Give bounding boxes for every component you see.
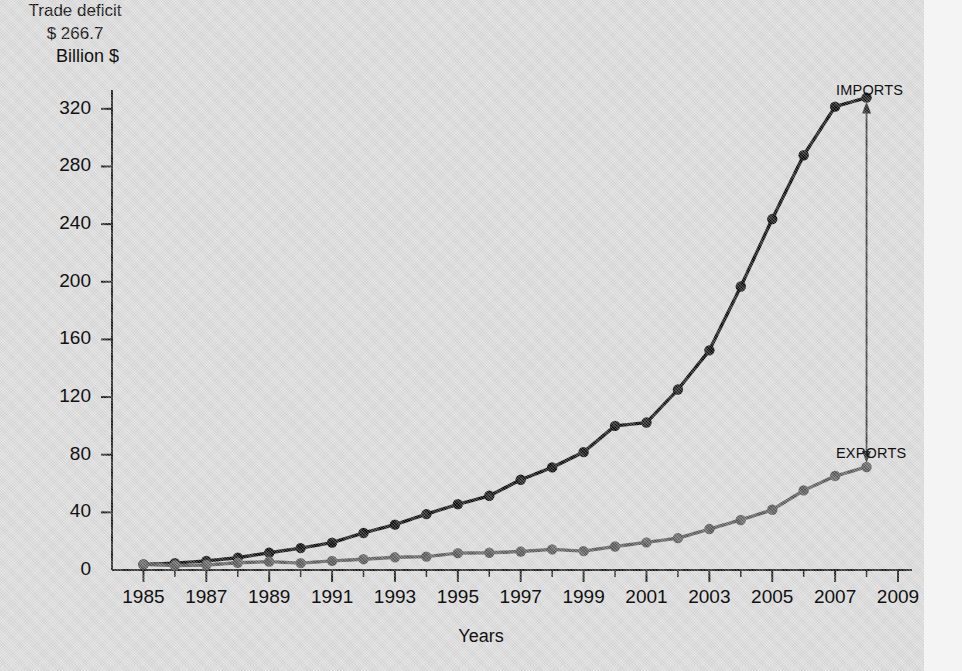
x-tick-label: 2005 bbox=[737, 586, 807, 608]
x-tick-label: 1999 bbox=[549, 586, 619, 608]
chart-axes bbox=[101, 90, 912, 582]
x-tick-label: 1987 bbox=[171, 586, 241, 608]
y-axis-title: Billion $ bbox=[56, 46, 119, 67]
x-tick-label: 2007 bbox=[800, 586, 870, 608]
x-tick-label: 1995 bbox=[423, 586, 493, 608]
page-right-margin bbox=[924, 0, 962, 671]
x-tick-label: 1989 bbox=[234, 586, 304, 608]
x-tick-label: 2009 bbox=[863, 586, 933, 608]
y-tick-label: 240 bbox=[25, 212, 91, 234]
x-axis-title: Years bbox=[0, 626, 962, 647]
x-tick-label: 1985 bbox=[108, 586, 178, 608]
x-tick-label: 1997 bbox=[486, 586, 556, 608]
y-tick-label: 0 bbox=[25, 558, 91, 580]
y-tick-label: 280 bbox=[25, 154, 91, 176]
y-tick-label: 160 bbox=[25, 327, 91, 349]
x-tick-label: 2001 bbox=[611, 586, 681, 608]
y-tick-label: 40 bbox=[25, 500, 91, 522]
x-tick-label: 1991 bbox=[297, 586, 367, 608]
y-tick-label: 80 bbox=[25, 443, 91, 465]
chart-annotation-arrows bbox=[862, 102, 871, 463]
y-tick-label: 200 bbox=[25, 270, 91, 292]
x-tick-label: 1993 bbox=[360, 586, 430, 608]
series-label-exports: EXPORTS bbox=[836, 445, 906, 461]
line-chart-plot bbox=[0, 0, 962, 671]
y-tick-label: 120 bbox=[25, 385, 91, 407]
chart-figure: Billion $ Years 04080120160200240280320 … bbox=[0, 0, 962, 671]
y-tick-label: 320 bbox=[25, 97, 91, 119]
series-label-imports: IMPORTS bbox=[836, 82, 903, 98]
x-tick-label: 2003 bbox=[674, 586, 744, 608]
chart-series bbox=[138, 92, 872, 570]
